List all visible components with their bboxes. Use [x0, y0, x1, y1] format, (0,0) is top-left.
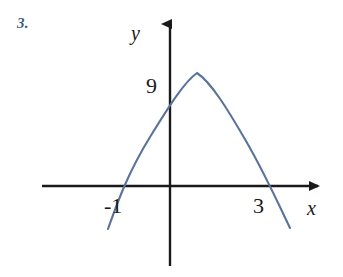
- parabola-plot: y x 9 -1 3: [0, 0, 343, 277]
- x-tick-label-3: 3: [253, 193, 264, 218]
- x-tick-label-minus-1: -1: [104, 193, 122, 218]
- x-axis-label: x: [306, 197, 316, 219]
- math-figure: 3. y x 9 -1 3: [0, 0, 343, 277]
- y-axis-label: y: [129, 22, 140, 45]
- y-tick-label-9: 9: [146, 73, 157, 98]
